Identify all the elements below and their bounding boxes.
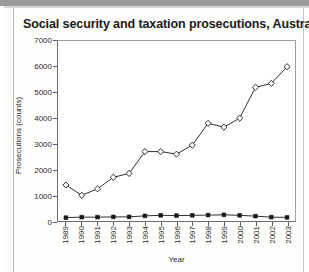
x-tick-label: 2003 xyxy=(284,226,293,244)
x-tick-mark xyxy=(65,222,66,226)
x-tick-label: 2001 xyxy=(252,226,261,244)
x-tick-mark xyxy=(256,222,257,226)
x-tick-label: 2002 xyxy=(268,226,277,244)
x-tick-label: 1993 xyxy=(125,226,134,244)
x-tick-label: 1999 xyxy=(220,226,229,244)
x-tick-mark xyxy=(145,222,146,226)
x-tick-mark xyxy=(240,222,241,226)
x-tick-label: 1990 xyxy=(77,226,86,244)
x-tick-mark xyxy=(81,222,82,226)
x-tick-label: 2000 xyxy=(236,226,245,244)
x-tick-label: 1992 xyxy=(109,226,118,244)
scanned-page: Social security and taxation prosecution… xyxy=(0,0,309,272)
x-tick-label: 1997 xyxy=(188,226,197,244)
x-tick-mark xyxy=(272,222,273,226)
x-tick-label: 1998 xyxy=(204,226,213,244)
x-tick-label: 1995 xyxy=(157,226,166,244)
x-tick-mark xyxy=(224,222,225,226)
x-axis-labels: 1989199019911992199319941995199619971998… xyxy=(0,0,309,272)
x-tick-mark xyxy=(129,222,130,226)
x-tick-mark xyxy=(192,222,193,226)
x-tick-mark xyxy=(97,222,98,226)
x-tick-mark xyxy=(177,222,178,226)
x-tick-mark xyxy=(288,222,289,226)
x-tick-label: 1991 xyxy=(93,226,102,244)
x-tick-label: 1989 xyxy=(61,226,70,244)
x-tick-label: 1994 xyxy=(141,226,150,244)
x-axis-title: Year xyxy=(57,255,296,264)
x-tick-mark xyxy=(161,222,162,226)
x-tick-mark xyxy=(208,222,209,226)
x-tick-mark xyxy=(113,222,114,226)
x-tick-label: 1996 xyxy=(173,226,182,244)
